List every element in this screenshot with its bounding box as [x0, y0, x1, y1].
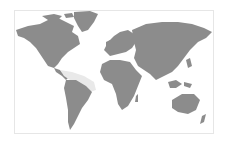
world-map [0, 0, 229, 144]
africa [100, 60, 142, 110]
madagascar [135, 94, 138, 102]
australia [172, 94, 200, 114]
british-isles [106, 40, 110, 46]
north-america [16, 18, 80, 68]
asia [132, 22, 212, 80]
arctic-islands [42, 13, 74, 20]
new-zealand [200, 114, 206, 124]
greenland [74, 11, 98, 32]
